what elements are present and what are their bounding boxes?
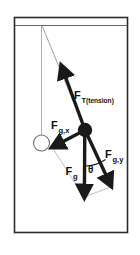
- gravity-label-symbol: F: [66, 165, 73, 177]
- pendulum-diagram-container: F T (tension) F g,x F g,y F g θ: [0, 0, 140, 255]
- gravity-x-label-symbol: F: [51, 119, 58, 131]
- angle-theta-label: θ: [88, 164, 93, 175]
- tension-label-qualifier: (tension): [86, 97, 114, 105]
- gravity-label-subscript: g: [73, 172, 78, 181]
- canvas-background: [0, 0, 140, 255]
- gravity-x-label-subscript: g,x: [59, 126, 71, 135]
- pendulum-bob: [78, 123, 92, 137]
- gravity-y-label-symbol: F: [105, 148, 112, 160]
- tension-label-symbol: F: [74, 89, 81, 101]
- pendulum-free-body-diagram: F T (tension) F g,x F g,y F g θ: [0, 0, 140, 255]
- gravity-y-label-subscript: g,y: [113, 155, 125, 164]
